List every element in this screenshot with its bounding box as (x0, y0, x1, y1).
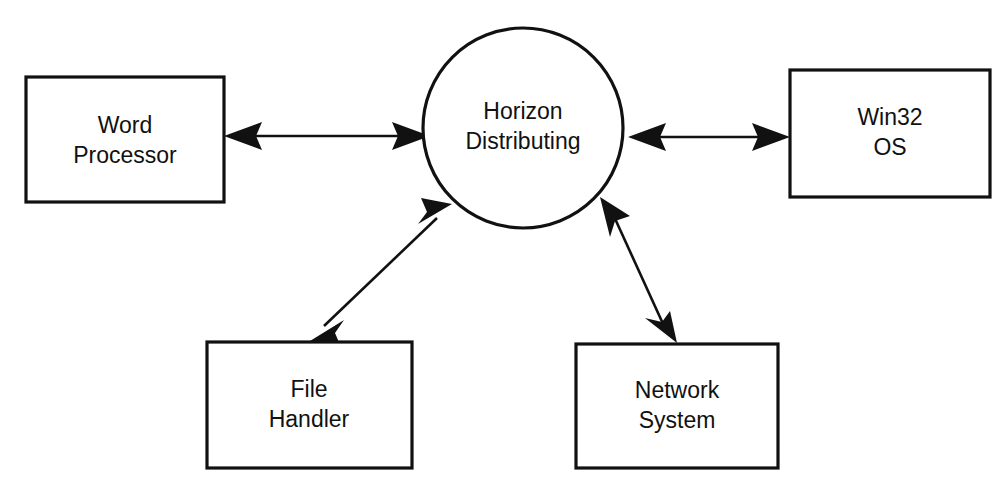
connection-hub-to-network-system (600, 197, 677, 343)
win32-os-label-line2: OS (873, 134, 906, 160)
node-file-handler[interactable]: File Handler (207, 342, 412, 468)
horizon-distributing-label-line1: Horizon (483, 98, 562, 124)
win32-os-label-line1: Win32 (857, 104, 922, 130)
arrowhead-toward-hub (600, 197, 630, 237)
network-system-label-line2: System (639, 407, 716, 433)
connection-hub-to-file-handler (310, 198, 452, 347)
file-handler-box[interactable] (207, 342, 412, 468)
word-processor-box[interactable] (26, 77, 224, 202)
connection-line (324, 218, 437, 326)
connection-hub-to-win32-os (628, 123, 790, 151)
node-horizon-distributing[interactable]: Horizon Distributing (423, 28, 623, 228)
file-handler-label-line1: File (290, 376, 327, 402)
node-word-processor[interactable]: Word Processor (26, 77, 224, 202)
diagram-canvas: Word Processor Win32 OS File Handler Net… (0, 0, 1008, 487)
connection-word-processor-to-hub (224, 122, 430, 150)
diagram-svg: Word Processor Win32 OS File Handler Net… (0, 0, 1008, 487)
word-processor-label-line2: Processor (73, 142, 177, 168)
node-network-system[interactable]: Network System (576, 344, 778, 468)
network-system-label-line1: Network (635, 377, 720, 403)
file-handler-label-line2: Handler (269, 406, 350, 432)
network-system-box[interactable] (576, 344, 778, 468)
word-processor-label-line1: Word (98, 112, 153, 138)
arrowhead-toward-network-system (645, 311, 677, 343)
horizon-distributing-label-line2: Distributing (465, 128, 580, 154)
node-win32-os[interactable]: Win32 OS (790, 70, 990, 197)
connection-line (612, 212, 664, 326)
